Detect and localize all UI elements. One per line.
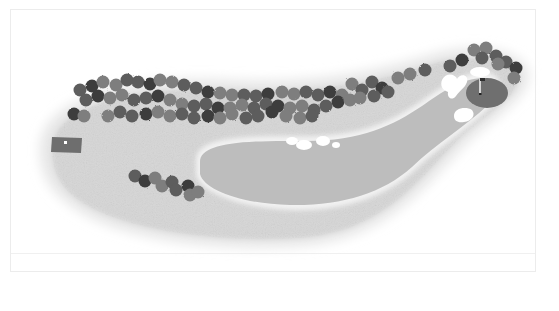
tree-icon [280, 110, 293, 123]
tree-icon [164, 94, 177, 107]
tree-icon [332, 96, 345, 109]
tree-icon [252, 110, 265, 123]
tree-icon [164, 110, 177, 123]
tree-icon [444, 60, 457, 73]
tree-icon [214, 112, 227, 125]
tree-icon [80, 94, 93, 107]
tree-icon [166, 76, 179, 89]
tree-icon [200, 98, 213, 111]
tree-icon [126, 110, 139, 123]
tree-icon [354, 92, 367, 105]
tree-icon [306, 110, 319, 123]
tree-icon [192, 186, 205, 199]
tree-icon [102, 110, 115, 123]
caption-strip [0, 276, 559, 311]
tree-icon [178, 79, 191, 92]
tree-icon [154, 74, 167, 87]
tree-icon [97, 76, 110, 89]
tree-icon [170, 184, 183, 197]
tree-icon [300, 86, 313, 99]
tree-icon [92, 90, 105, 103]
tree-icon [492, 58, 505, 71]
tree-icon [392, 72, 405, 85]
tree-icon [508, 72, 521, 85]
tree-icon [128, 94, 141, 107]
tree-icon [266, 106, 279, 119]
tee-box [51, 137, 82, 153]
tree-icon [152, 90, 165, 103]
green [466, 78, 508, 108]
tree-icon [476, 52, 489, 65]
tree-icon [78, 110, 91, 123]
tree-icon [456, 54, 469, 67]
tree-icon [296, 100, 309, 113]
tree-icon [404, 68, 417, 81]
tree-icon [312, 89, 325, 102]
tree-icon [226, 108, 239, 121]
tree-icon [320, 100, 333, 113]
tree-icon [214, 87, 227, 100]
tree-icon [202, 110, 215, 123]
tree-icon [240, 112, 253, 125]
bunker-icon [470, 67, 490, 77]
tree-icon [140, 108, 153, 121]
tree-icon [368, 90, 381, 103]
tree-icon [140, 92, 153, 105]
bunker-icon [286, 137, 298, 145]
tree-icon [294, 112, 307, 125]
tree-icon [226, 89, 239, 102]
tree-icon [121, 74, 134, 87]
tree-icon [152, 106, 165, 119]
tree-icon [104, 92, 117, 105]
tree-icon [132, 76, 145, 89]
tree-icon [116, 89, 129, 102]
tree-icon [382, 86, 395, 99]
tree-icon [114, 106, 127, 119]
tree-icon [276, 86, 289, 99]
bunker-icon [316, 136, 330, 146]
bunker-icon [332, 142, 340, 148]
bunker-icon [296, 140, 312, 150]
tree-icon [176, 108, 189, 121]
tree-icon [236, 99, 249, 112]
tree-icon [288, 88, 301, 101]
tree-icon [190, 82, 203, 95]
tree-icon [202, 86, 215, 99]
golf-hole-diagram [0, 0, 559, 311]
tree-icon [188, 112, 201, 125]
tree-icon [419, 64, 432, 77]
tree-icon [188, 100, 201, 113]
